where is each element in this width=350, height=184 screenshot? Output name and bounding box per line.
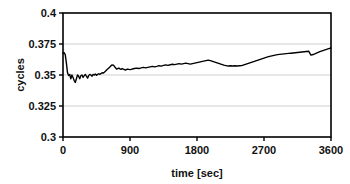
x-tick-label: 3600 <box>319 144 343 156</box>
y-tick-label: 0.4 <box>41 7 57 19</box>
y-tick-label: 0.3 <box>41 131 56 143</box>
x-tick-label: 1800 <box>185 144 209 156</box>
chart-container: 0900180027003600 0.30.3250.350.3750.4 ti… <box>0 0 350 184</box>
x-tick-label: 2700 <box>252 144 276 156</box>
x-axis-tick-labels: 0900180027003600 <box>60 144 343 156</box>
y-tick-label: 0.375 <box>28 38 56 50</box>
x-tick-label: 900 <box>121 144 139 156</box>
y-tick-label: 0.325 <box>28 100 56 112</box>
x-axis-title: time [sec] <box>171 167 223 179</box>
x-tick-label: 0 <box>60 144 66 156</box>
y-axis-title: cycles <box>14 58 26 92</box>
line-chart: 0900180027003600 0.30.3250.350.3750.4 ti… <box>0 0 350 184</box>
y-tick-label: 0.35 <box>35 69 56 81</box>
y-axis-tick-labels: 0.30.3250.350.3750.4 <box>28 7 56 143</box>
